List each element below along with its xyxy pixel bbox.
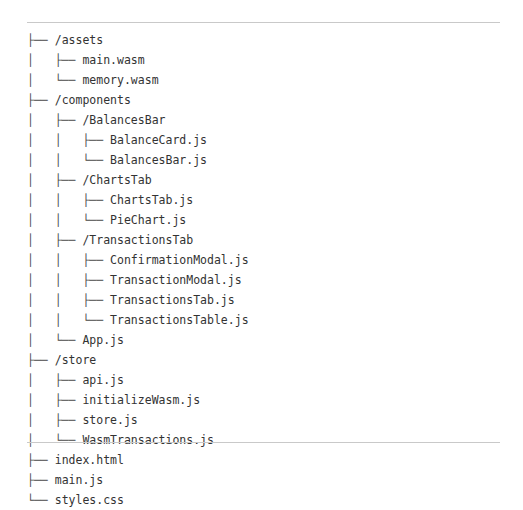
tree-branch-glyph: ├── [27, 473, 55, 487]
tree-branch-glyph: ├── [27, 353, 55, 367]
tree-row[interactable]: ├── /store [27, 350, 507, 370]
tree-branch-glyph: │ ├── [27, 413, 82, 427]
tree-row[interactable]: │ ├── main.wasm [27, 50, 507, 70]
tree-row[interactable]: ├── /components [27, 90, 507, 110]
tree-branch-glyph: │ ├── [27, 113, 82, 127]
tree-node-label[interactable]: App.js [82, 333, 124, 347]
clipped-header-text [11, 0, 53, 5]
tree-node-label[interactable]: TransactionsTable.js [110, 313, 248, 327]
tree-branch-glyph: │ └── [27, 433, 82, 447]
tree-branch-glyph: │ │ ├── [27, 193, 110, 207]
tree-row[interactable]: ├── /assets [27, 30, 507, 50]
tree-node-label[interactable]: /BalancesBar [82, 113, 165, 127]
tree-node-label[interactable]: ChartsTab.js [110, 193, 193, 207]
tree-row[interactable]: │ │ └── PieChart.js [27, 210, 507, 230]
tree-branch-glyph: │ │ └── [27, 153, 110, 167]
tree-node-label[interactable]: api.js [82, 373, 124, 387]
tree-row[interactable]: │ └── memory.wasm [27, 70, 507, 90]
tree-node-label[interactable]: PieChart.js [110, 213, 186, 227]
file-tree: ├── /assets│ ├── main.wasm│ └── memory.w… [27, 30, 507, 510]
divider-bottom [27, 442, 500, 443]
tree-node-label[interactable]: /assets [55, 33, 103, 47]
tree-row[interactable]: │ │ ├── ConfirmationModal.js [27, 250, 507, 270]
tree-node-label[interactable]: /components [55, 93, 131, 107]
tree-node-label[interactable]: BalanceCard.js [110, 133, 207, 147]
tree-node-label[interactable]: store.js [82, 413, 137, 427]
tree-branch-glyph: │ ├── [27, 173, 82, 187]
tree-node-label[interactable]: memory.wasm [82, 73, 158, 87]
tree-branch-glyph: └── [27, 493, 55, 507]
tree-branch-glyph: │ ├── [27, 233, 82, 247]
tree-row[interactable]: │ │ └── TransactionsTable.js [27, 310, 507, 330]
tree-node-label[interactable]: TransactionModal.js [110, 273, 242, 287]
tree-node-label[interactable]: ConfirmationModal.js [110, 253, 248, 267]
tree-branch-glyph: ├── [27, 33, 55, 47]
tree-row[interactable]: │ ├── api.js [27, 370, 507, 390]
tree-branch-glyph: │ ├── [27, 373, 82, 387]
tree-node-label[interactable]: initializeWasm.js [82, 393, 200, 407]
tree-branch-glyph: ├── [27, 93, 55, 107]
tree-branch-glyph: │ └── [27, 73, 82, 87]
tree-node-label[interactable]: styles.css [55, 493, 124, 507]
tree-row[interactable]: │ │ ├── BalanceCard.js [27, 130, 507, 150]
tree-node-label[interactable]: index.html [55, 453, 124, 467]
tree-node-label[interactable]: WasmTransactions.js [82, 433, 214, 447]
tree-row[interactable]: │ ├── /BalancesBar [27, 110, 507, 130]
tree-row[interactable]: ├── index.html [27, 450, 507, 470]
tree-row[interactable]: │ │ ├── TransactionModal.js [27, 270, 507, 290]
tree-branch-glyph: │ └── [27, 333, 82, 347]
tree-row[interactable]: │ │ ├── TransactionsTab.js [27, 290, 507, 310]
tree-row[interactable]: │ │ └── BalancesBar.js [27, 150, 507, 170]
tree-row[interactable]: └── styles.css [27, 490, 507, 510]
tree-node-label[interactable]: main.wasm [82, 53, 144, 67]
tree-node-label[interactable]: TransactionsTab.js [110, 293, 235, 307]
tree-branch-glyph: ├── [27, 453, 55, 467]
tree-row[interactable]: │ └── App.js [27, 330, 507, 350]
tree-row[interactable]: │ └── WasmTransactions.js [27, 430, 507, 450]
tree-branch-glyph: │ │ └── [27, 213, 110, 227]
divider-top [27, 22, 500, 23]
tree-branch-glyph: │ │ ├── [27, 293, 110, 307]
tree-node-label[interactable]: main.js [55, 473, 103, 487]
tree-node-label[interactable]: /TransactionsTab [82, 233, 193, 247]
tree-branch-glyph: │ │ └── [27, 313, 110, 327]
tree-row[interactable]: │ ├── /ChartsTab [27, 170, 507, 190]
tree-branch-glyph: │ │ ├── [27, 133, 110, 147]
tree-branch-glyph: │ │ ├── [27, 253, 110, 267]
tree-row[interactable]: │ │ ├── ChartsTab.js [27, 190, 507, 210]
tree-row[interactable]: ├── main.js [27, 470, 507, 490]
tree-node-label[interactable]: /store [55, 353, 97, 367]
tree-row[interactable]: │ ├── initializeWasm.js [27, 390, 507, 410]
tree-branch-glyph: │ │ ├── [27, 273, 110, 287]
tree-row[interactable]: │ ├── store.js [27, 410, 507, 430]
tree-branch-glyph: │ ├── [27, 393, 82, 407]
tree-row[interactable]: │ ├── /TransactionsTab [27, 230, 507, 250]
tree-node-label[interactable]: /ChartsTab [82, 173, 151, 187]
tree-branch-glyph: │ ├── [27, 53, 82, 67]
tree-node-label[interactable]: BalancesBar.js [110, 153, 207, 167]
